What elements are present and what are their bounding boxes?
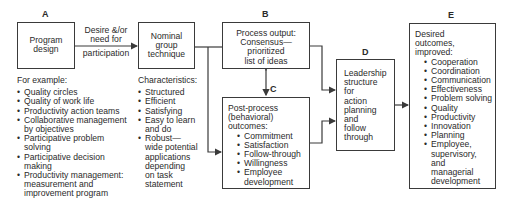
label-b: B — [262, 10, 269, 19]
characteristic-item: Robust—wide potentialapplicationsdependi… — [138, 134, 198, 189]
program-design-line: design — [18, 45, 74, 54]
example-item: Participative problemsolving — [17, 134, 127, 152]
characteristics-list: Structured Efficient Satisfying Easy to … — [138, 88, 198, 189]
characteristics-section: Characteristics: Structured Efficient Sa… — [138, 76, 198, 189]
nominal-line: technique — [139, 50, 194, 59]
example-item: Participative decisionmaking — [17, 153, 127, 171]
leadership-structure-box: Leadership structure for action planning… — [336, 59, 395, 151]
characteristic-item: Easy to learnand do — [138, 116, 198, 134]
example-item: Collaborative managementby objectives — [17, 116, 127, 134]
participation-label: Desire &/or need for participation — [78, 26, 134, 59]
examples-section: For example: Quality circles Quality of … — [17, 76, 127, 199]
program-design-box: Program design — [17, 22, 75, 69]
label-a: A — [42, 10, 49, 19]
leadership-line: through — [344, 133, 394, 142]
desired-outcomes-box: Desired outcomes, improved: Cooperation … — [409, 23, 496, 189]
examples-heading: For example: — [17, 76, 127, 85]
label-c: C — [270, 85, 277, 94]
nominal-group-technique-box: Nominal group technique — [138, 22, 195, 69]
participation-label-line: participation — [78, 49, 134, 58]
characteristics-heading: Characteristics: — [138, 76, 198, 85]
examples-list: Quality circles Quality of work life Pro… — [17, 88, 127, 198]
process-output-line: list of ideas — [223, 57, 309, 66]
label-d: D — [362, 48, 369, 57]
post-process-outcomes-box: Post-process (behavioral) outcomes: Comm… — [222, 97, 310, 189]
process-output-box: Process output: Consensus— prioritized l… — [222, 22, 310, 69]
outcome-item: Employeedevelopment — [237, 168, 309, 186]
participation-label-line: need for — [78, 35, 134, 44]
post-process-list: Commitment Satisfaction Follow-through W… — [237, 132, 309, 187]
desired-outcomes-list: Cooperation Coordination Communication E… — [424, 58, 495, 187]
desired-outcome-item: Employee,supervisory,andmanagerialdevelo… — [424, 140, 495, 186]
example-item: Productivity management:measurement andi… — [17, 171, 127, 199]
label-e: E — [448, 11, 454, 20]
